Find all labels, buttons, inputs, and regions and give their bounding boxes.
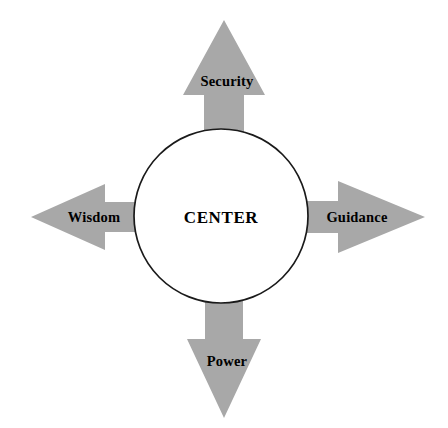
spoke-label-wisdom: Wisdom (68, 210, 121, 225)
diagram-canvas: CENTER Security Guidance Wisdom Power (0, 0, 448, 428)
center-label: CENTER (184, 209, 258, 226)
spoke-label-security: Security (200, 74, 253, 89)
spoke-label-power: Power (207, 354, 247, 369)
spoke-label-guidance: Guidance (326, 210, 387, 225)
